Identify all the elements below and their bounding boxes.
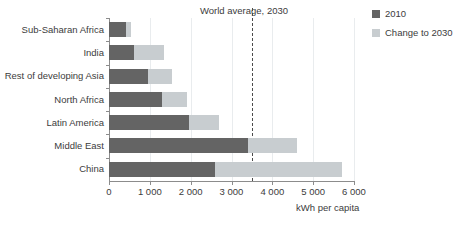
y-axis-tick <box>106 18 109 19</box>
bar-row <box>109 18 354 41</box>
y-axis-tick <box>106 41 109 42</box>
legend-label: 2010 <box>385 8 406 19</box>
x-axis-tick-label: 1 000 <box>138 186 162 197</box>
stacked-bar <box>109 162 342 177</box>
bar-segment-change <box>126 22 130 37</box>
bar-segment-base <box>109 162 215 177</box>
bar-segment-change <box>148 69 173 84</box>
x-axis-tick-label: 0 <box>106 186 111 197</box>
bar-segment-base <box>109 92 162 107</box>
bar-row <box>109 158 354 181</box>
gridline <box>354 18 355 181</box>
x-axis-tick <box>109 181 110 185</box>
y-axis-tick <box>106 158 109 159</box>
category-label: Middle East <box>0 140 104 151</box>
y-axis-tick <box>106 134 109 135</box>
legend-item[interactable]: Change to 2030 <box>372 27 453 38</box>
bar-segment-change <box>215 162 342 177</box>
y-axis-tick <box>106 88 109 89</box>
bar-segment-change <box>189 115 220 130</box>
bar-segment-base <box>109 69 148 84</box>
x-axis-tick <box>150 181 151 185</box>
x-axis-tick-label: 5 000 <box>301 186 325 197</box>
x-axis-tick-label: 6 000 <box>342 186 366 197</box>
plot-area <box>109 18 354 181</box>
stacked-bar <box>109 45 164 60</box>
y-axis-tick <box>106 111 109 112</box>
bar-segment-base <box>109 115 189 130</box>
x-axis-tick <box>191 181 192 185</box>
x-axis-tick-label: 2 000 <box>179 186 203 197</box>
bar-row <box>109 41 354 64</box>
category-label: North Africa <box>0 94 104 105</box>
legend-label: Change to 2030 <box>385 27 453 38</box>
x-axis-title: kWh per capita <box>296 202 359 213</box>
stacked-bar <box>109 69 172 84</box>
bar-segment-base <box>109 45 134 60</box>
x-axis-tick <box>354 181 355 185</box>
bar-row <box>109 88 354 111</box>
legend-swatch <box>372 29 380 37</box>
stacked-bar <box>109 138 297 153</box>
chart-legend: 2010Change to 2030 <box>372 8 453 46</box>
x-axis-tick <box>232 181 233 185</box>
bar-row <box>109 134 354 157</box>
bar-segment-base <box>109 22 126 37</box>
legend-swatch <box>372 10 380 18</box>
category-label: Sub-Saharan Africa <box>0 24 104 35</box>
category-label: India <box>0 47 104 58</box>
stacked-bar <box>109 22 131 37</box>
bar-row <box>109 111 354 134</box>
x-axis-tick <box>313 181 314 185</box>
world-average-annotation-label: World average, 2030 <box>200 5 288 16</box>
y-axis-tick <box>106 65 109 66</box>
x-axis-tick-label: 4 000 <box>260 186 284 197</box>
legend-item[interactable]: 2010 <box>372 8 453 19</box>
bar-segment-change <box>134 45 164 60</box>
category-label: Rest of developing Asia <box>0 70 104 81</box>
stacked-bar <box>109 92 187 107</box>
x-axis-tick-label: 3 000 <box>220 186 244 197</box>
category-label: China <box>0 163 104 174</box>
category-label: Latin America <box>0 117 104 128</box>
bar-row <box>109 65 354 88</box>
bar-segment-change <box>248 138 297 153</box>
x-axis-tick <box>272 181 273 185</box>
chart-figure: World average, 2030 Sub-Saharan AfricaIn… <box>0 0 462 225</box>
bar-segment-change <box>162 92 187 107</box>
stacked-bar <box>109 115 219 130</box>
bar-segment-base <box>109 138 248 153</box>
